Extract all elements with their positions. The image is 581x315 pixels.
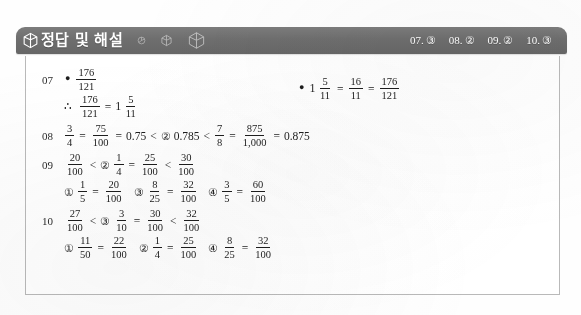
math-operator: = (98, 242, 105, 254)
fraction-numerator: 3 (117, 208, 126, 221)
fraction-numerator: 7 (215, 123, 224, 136)
fraction-numerator: 60 (251, 179, 266, 192)
math-operator: = (337, 83, 344, 95)
decimal-value: 0.875 (284, 130, 310, 142)
answer-key-page: 정답 및 해설 (0, 0, 581, 315)
solution-right-column: ●1511=1611=176121 (298, 76, 400, 101)
fraction-numerator: 30 (148, 208, 163, 221)
fraction-numerator: 1 (78, 179, 87, 192)
answer-number: 07. (410, 34, 424, 46)
solution-line: 07●176121 (26, 66, 559, 93)
solution-expression: 34=75100=0.75<②0.785<78=8751,000=0.875 (64, 123, 310, 148)
solution-expression: 20100<②14=25100<30100 (64, 152, 197, 177)
solutions-container: 07●17612107∴176121=1511●1511=1611=176121… (25, 56, 560, 295)
choice-marker: ② (139, 242, 149, 254)
bullet-marker: ● (65, 74, 70, 83)
page-header: 정답 및 해설 (16, 27, 567, 54)
math-operator: < (150, 130, 157, 142)
fraction: 78 (215, 123, 224, 148)
fraction-denominator: 100 (248, 192, 268, 204)
fraction-numerator: 11 (78, 235, 92, 248)
fraction: 1150 (78, 235, 93, 260)
math-operator: = (129, 159, 136, 171)
solution-expression: 27100<③310=30100<32100 (64, 208, 202, 233)
choice-marker: ② (100, 159, 110, 171)
solution-block: 07●17612107∴176121=1511●1511=1611=176121 (26, 66, 559, 120)
choice-marker: ① (64, 242, 74, 254)
mixed-number-whole-part: 1 (309, 81, 315, 96)
therefore-symbol: ∴ (64, 99, 72, 114)
fraction-numerator: 75 (93, 123, 108, 136)
fraction-denominator: 11 (124, 107, 138, 119)
math-operator: = (105, 101, 112, 113)
choice-marker: ③ (134, 186, 144, 198)
choice-marker: ① (64, 186, 74, 198)
cube-outline-icon (21, 31, 41, 50)
answer-number: 08. (449, 34, 463, 46)
answer-summary-list: 07.③08.②09.②10.③ (410, 34, 567, 47)
solution-line: 0920100<②14=25100<30100 (26, 151, 559, 178)
fraction-denominator: 25 (148, 192, 163, 204)
solution-expression: ①1150=22100②14=25100④825=32100 (64, 235, 274, 260)
choice-marker: ② (161, 130, 171, 142)
fraction-denominator: 5 (222, 192, 231, 204)
fraction: 8751,000 (241, 123, 269, 148)
fraction-denominator: 50 (78, 248, 93, 260)
fraction-denominator: 4 (153, 248, 162, 260)
fraction-numerator: 3 (65, 123, 74, 136)
fraction: 511 (124, 94, 138, 119)
answer-entry: 09.② (488, 34, 514, 47)
math-operator: < (165, 159, 172, 171)
solution-line: 1027100<③310=30100<32100 (26, 207, 559, 234)
fraction-numerator: 8 (150, 179, 159, 192)
fraction-denominator: 4 (114, 165, 123, 177)
fraction-numerator: 20 (106, 179, 121, 192)
fraction-denominator: 100 (140, 165, 160, 177)
math-operator: = (273, 130, 280, 142)
solution-line: 07∴176121=1511 (26, 93, 559, 120)
fraction-denominator: 100 (176, 165, 196, 177)
answer-entry: 10.③ (526, 34, 552, 47)
fraction: 27100 (65, 208, 85, 233)
fraction: 176121 (76, 67, 96, 92)
fraction-numerator: 1 (114, 152, 123, 165)
fraction-denominator: 10 (114, 221, 129, 233)
fraction: 825 (148, 179, 163, 204)
fraction-denominator: 100 (104, 192, 124, 204)
problem-number: 08 (42, 130, 64, 142)
fraction: 176121 (380, 76, 400, 101)
answer-entry: 07.③ (410, 34, 436, 47)
fraction: 14 (114, 152, 123, 177)
fraction: 34 (65, 123, 74, 148)
solution-block: 1027100<③310=30100<3210010①1150=22100②14… (26, 207, 559, 261)
math-operator: = (242, 242, 249, 254)
fraction: 30100 (145, 208, 165, 233)
fraction: 25100 (140, 152, 160, 177)
fraction-numerator: 25 (143, 152, 158, 165)
fraction-numerator: 30 (179, 152, 194, 165)
fraction-denominator: 11 (318, 89, 332, 101)
answer-number: 10. (526, 34, 540, 46)
fraction-denominator: 121 (76, 80, 96, 92)
header-decorative-icons (137, 31, 206, 50)
math-operator: = (92, 186, 99, 198)
choice-marker: ③ (100, 215, 110, 227)
fraction-denominator: 100 (253, 248, 273, 260)
fraction: 32100 (182, 208, 202, 233)
fraction-denominator: 121 (380, 89, 400, 101)
fraction-numerator: 32 (184, 208, 199, 221)
fraction-numerator: 20 (68, 152, 83, 165)
fraction: 25100 (179, 235, 199, 260)
math-operator: = (116, 130, 123, 142)
fraction-denominator: 121 (80, 107, 100, 119)
math-operator: = (229, 130, 236, 142)
fraction: 20100 (65, 152, 85, 177)
math-operator: = (79, 130, 86, 142)
decimal-value: 0.785 (174, 130, 200, 142)
fraction: 825 (222, 235, 237, 260)
fraction-denominator: 100 (65, 221, 85, 233)
solution-expression: ①15=20100③825=32100④35=60100 (64, 179, 269, 204)
fraction-denominator: 25 (222, 248, 237, 260)
fraction-numerator: 8 (225, 235, 234, 248)
fraction-denominator: 100 (109, 248, 129, 260)
